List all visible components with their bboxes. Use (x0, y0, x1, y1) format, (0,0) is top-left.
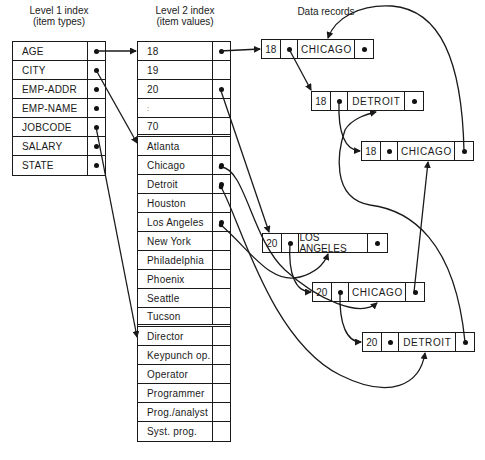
item-value-label: Detroit (138, 179, 212, 190)
level1-row-jobcode: JOBCODE (13, 118, 105, 137)
pointer-cell (212, 346, 230, 364)
pointer-cell (87, 156, 105, 175)
pointer-cell (212, 80, 230, 98)
record-age: 18 (262, 40, 281, 58)
level2-row-city-chicago: Chicago (138, 156, 230, 175)
level2-row-city-detroit: Detroit (138, 175, 230, 194)
pointer-dot-icon (388, 340, 393, 345)
pointer-dot-icon (462, 149, 467, 154)
level2-row-city-atlanta: Atlanta (138, 137, 230, 156)
item-value-label: Programmer (138, 388, 212, 399)
item-value-label: Chicago (138, 160, 212, 171)
pointer-cell (212, 137, 230, 155)
record-city: DETROIT (399, 333, 456, 351)
level1-caption: Level 1 index (item types) (14, 5, 104, 27)
level2-title: Level 2 index (138, 5, 232, 16)
level2-row-age-20: 20 (138, 80, 230, 99)
record-city: CHICAGO (398, 142, 455, 160)
pointer-dot-icon (94, 87, 99, 92)
pointer-cell (87, 137, 105, 155)
data-record-3: 18 CHICAGO (361, 141, 474, 161)
data-records-caption: Data records (296, 6, 356, 17)
data-record-4: 20 LOS ANGELES (262, 233, 388, 253)
level2-row-city-los-angeles: Los Angeles (138, 213, 230, 232)
item-type-label: SALARY (13, 141, 87, 152)
level2-row-job-keypunch: Keypunch op. (138, 346, 230, 365)
record-age-pointer (282, 234, 300, 252)
level1-row-salary: SALARY (13, 137, 105, 156)
level2-row-age-18: 18 (138, 42, 230, 61)
level2-row-city-new-york: New York (138, 232, 230, 251)
pointer-dot-icon (219, 87, 224, 92)
record-city-pointer (456, 333, 474, 351)
pointer-dot-icon (375, 241, 380, 246)
item-value-label: Houston (138, 198, 212, 209)
record-city: LOS ANGELES (299, 234, 368, 252)
pointer-cell (212, 403, 230, 421)
pointer-dot-icon (387, 149, 392, 154)
level1-row-emp-name: EMP-NAME (13, 99, 105, 118)
item-type-label: CITY (13, 65, 87, 76)
level1-row-age: AGE (13, 42, 105, 61)
item-value-label: Prog./analyst (138, 407, 212, 418)
item-value-label: Seattle (138, 293, 212, 304)
pointer-cell (212, 327, 230, 345)
level1-row-state: STATE (13, 156, 105, 175)
vertical-ellipsis: : (138, 104, 212, 113)
item-type-label: EMP-ADDR (13, 84, 87, 95)
pointer-cell (87, 118, 105, 136)
record-age-pointer (281, 40, 299, 58)
item-type-label: JOBCODE (13, 122, 87, 133)
pointer-dot-icon (94, 144, 99, 149)
data-record-6: 20 DETROIT (362, 332, 475, 352)
item-type-label: STATE (13, 160, 87, 171)
record-age: 20 (313, 283, 332, 301)
pointer-dot-icon (219, 220, 224, 225)
pointer-cell (212, 175, 230, 193)
pointer-cell (87, 80, 105, 98)
pointer-cell (212, 156, 230, 174)
item-value-label: New York (138, 236, 212, 247)
record-age-pointer (382, 333, 400, 351)
item-value-label: Syst. prog. (138, 426, 212, 437)
pointer-dot-icon (94, 125, 99, 130)
level2-row-job-syst-prog: Syst. prog. (138, 422, 230, 441)
level2-row-city-seattle: Seattle (138, 289, 230, 308)
level2-row-city-phoenix: Phoenix (138, 270, 230, 289)
item-value-label: Phoenix (138, 274, 212, 285)
record-age-pointer (332, 283, 350, 301)
pointer-dot-icon (463, 340, 468, 345)
item-value-label: Philadelphia (138, 255, 212, 266)
pointer-cell (212, 61, 230, 79)
pointer-dot-icon (338, 290, 343, 295)
data-record-1: 18 CHICAGO (261, 39, 374, 59)
pointer-cell (212, 384, 230, 402)
level1-title: Level 1 index (14, 5, 104, 16)
pointer-cell (212, 232, 230, 250)
pointer-dot-icon (362, 47, 367, 52)
pointer-cell (212, 308, 230, 324)
record-age-pointer (331, 92, 349, 110)
level2-row-age-ellipsis: : (138, 99, 230, 118)
pointer-dot-icon (94, 163, 99, 168)
pointer-cell (212, 42, 230, 60)
level2-row-age-19: 19 (138, 61, 230, 80)
level1-index-table: AGE CITY EMP-ADDR EMP-NAME JOBCODE SALAR… (12, 41, 106, 176)
level2-index-table: 18 19 20 : 70 Atlanta Chicago Detroit Ho… (137, 41, 231, 442)
level2-row-job-prog-analyst: Prog./analyst (138, 403, 230, 422)
pointer-cell (212, 251, 230, 269)
record-age: 20 (363, 333, 382, 351)
pointer-dot-icon (219, 163, 224, 168)
pointer-cell (212, 118, 230, 134)
pointer-cell (212, 213, 230, 231)
record-city-pointer (406, 283, 424, 301)
pointer-dot-icon (288, 241, 293, 246)
pointer-dot-icon (219, 49, 224, 54)
record-city-pointer (455, 142, 473, 160)
item-value-label: Keypunch op. (138, 350, 212, 361)
item-value-label: Atlanta (138, 141, 212, 152)
level1-row-city: CITY (13, 61, 105, 80)
record-age-pointer (381, 142, 399, 160)
item-value-label: Los Angeles (138, 217, 212, 228)
pointer-dot-icon (413, 290, 418, 295)
